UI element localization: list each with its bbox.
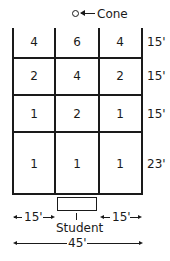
grid-cell: 2 bbox=[14, 69, 54, 83]
arrowhead-right-icon bbox=[138, 215, 142, 219]
dimension-left-label: 15' bbox=[24, 210, 43, 224]
grid-cell: 4 bbox=[14, 35, 54, 49]
arrowhead-right-icon bbox=[51, 215, 55, 219]
row-distance: 15' bbox=[147, 107, 166, 121]
student-desk bbox=[57, 197, 97, 211]
row-distance: 15' bbox=[147, 69, 166, 83]
grid-cell: 6 bbox=[57, 35, 97, 49]
row-distance: 15' bbox=[147, 35, 166, 49]
arrowhead-left-icon bbox=[13, 215, 17, 219]
student-label: Student bbox=[56, 221, 103, 235]
grid-line bbox=[12, 193, 143, 195]
dimension-right-label: 15' bbox=[112, 210, 131, 224]
grid-cell: 1 bbox=[14, 107, 54, 121]
grid-cell: 4 bbox=[100, 35, 140, 49]
row-distance: 23' bbox=[147, 157, 166, 171]
grid-cell: 1 bbox=[100, 157, 140, 171]
grid-cell: 1 bbox=[14, 157, 54, 171]
student-tick bbox=[76, 213, 77, 220]
grid-cell: 2 bbox=[57, 107, 97, 121]
grid-line bbox=[54, 28, 56, 195]
arrowhead-left-icon bbox=[100, 215, 104, 219]
grid-cell: 2 bbox=[100, 69, 140, 83]
cone-label: Cone bbox=[97, 7, 128, 21]
arrowhead-right-icon bbox=[139, 241, 143, 245]
grid-cell: 1 bbox=[57, 157, 97, 171]
dimension-arrow bbox=[130, 217, 138, 218]
grid-line bbox=[12, 57, 143, 59]
dimension-total-label: 45' bbox=[68, 236, 87, 250]
dimension-arrow bbox=[43, 217, 51, 218]
grid-cell: 4 bbox=[57, 69, 97, 83]
cone-arrowhead-icon bbox=[80, 10, 85, 16]
grid-line bbox=[12, 94, 143, 96]
arrowhead-left-icon bbox=[13, 241, 17, 245]
cone-marker bbox=[72, 10, 79, 17]
grid-line bbox=[12, 131, 143, 133]
grid-cell: 1 bbox=[100, 107, 140, 121]
dimension-arrow bbox=[15, 243, 67, 244]
grid-line bbox=[141, 28, 143, 195]
dimension-arrow bbox=[87, 243, 139, 244]
